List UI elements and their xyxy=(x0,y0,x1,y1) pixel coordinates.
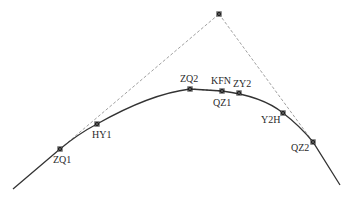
point-label-zq2: ZQ2 xyxy=(180,73,198,84)
point-label-zy2: ZY2 xyxy=(233,78,251,89)
point-label-kfn: KFN xyxy=(211,75,231,86)
point-label-qz2: QZ2 xyxy=(291,142,309,153)
curve-diagram: ZQ1HY1ZQ2KFNQZ1ZY2Y2HQZ2 xyxy=(0,0,347,205)
alignment-curve xyxy=(13,89,340,189)
point-label-qz1: QZ1 xyxy=(213,97,231,108)
point-label-y2h: Y2H xyxy=(261,114,280,125)
station-points: ZQ1HY1ZQ2KFNQZ1ZY2Y2HQZ2 xyxy=(53,73,316,165)
point-label-zq1: ZQ1 xyxy=(53,154,71,165)
apex-marker-icon xyxy=(217,12,222,17)
point-label-hy1: HY1 xyxy=(92,129,111,140)
